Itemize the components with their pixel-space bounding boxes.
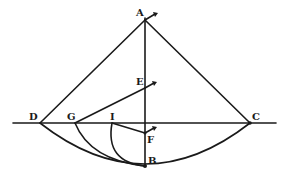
label-f: F — [147, 134, 154, 145]
label-i: I — [110, 111, 115, 122]
label-g: G — [67, 111, 76, 122]
point-b — [143, 164, 147, 168]
pointer-a — [145, 14, 155, 20]
geometric-diagram: A E D G I C F B — [0, 0, 287, 177]
pointer-e — [145, 83, 154, 88]
line-ac — [145, 20, 250, 123]
label-e: E — [136, 76, 144, 87]
line-ad — [40, 20, 145, 123]
label-c: C — [252, 111, 260, 122]
label-b: B — [148, 155, 156, 166]
label-d: D — [29, 111, 38, 122]
line-if — [112, 123, 145, 133]
label-a: A — [135, 7, 144, 18]
pointer-f — [145, 128, 154, 133]
